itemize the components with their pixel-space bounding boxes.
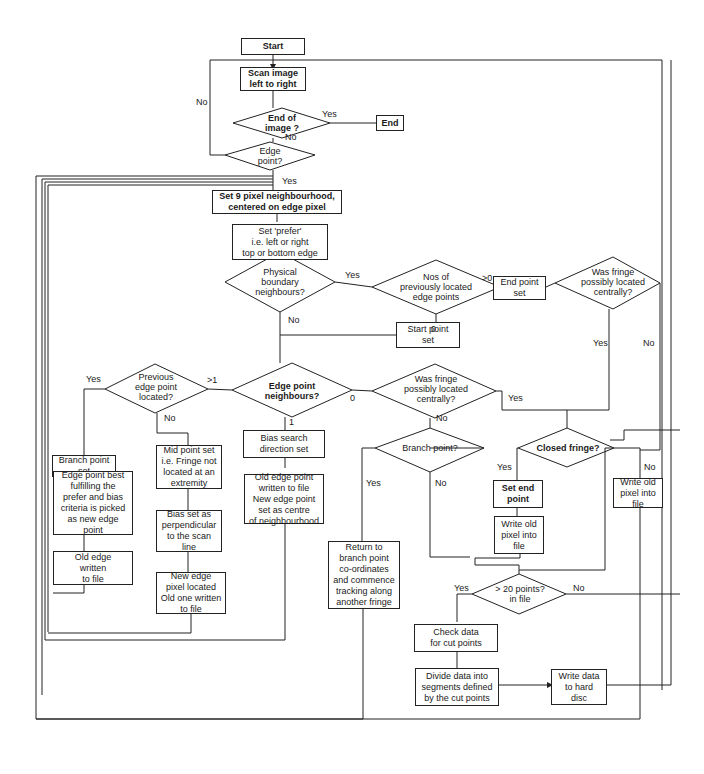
write-old-pixel-right-box: Write old pixel into file — [613, 478, 663, 508]
divide-data-box: Divide data into segments defined by the… — [415, 668, 499, 706]
label-no-end-of-image: No — [285, 132, 297, 142]
label-no-gt20: No — [573, 583, 585, 593]
label-yes-gt20: Yes — [454, 583, 469, 593]
label-no-physical: No — [288, 315, 300, 325]
label-no-previous: No — [164, 413, 176, 423]
label-one: 1 — [289, 417, 294, 427]
previous-edge-point-decision: Previous edge point located? — [120, 370, 192, 404]
old-edge-point-written-box: Old edge point written to file New edge … — [244, 474, 324, 524]
label-yes-previous: Yes — [86, 374, 101, 384]
end-box: End — [376, 115, 404, 131]
label-zero-neighbours: 0 — [350, 393, 355, 403]
check-data-box: Check data for cut points — [414, 624, 498, 652]
label-yes-branch: Yes — [366, 478, 381, 488]
label-gt1: >1 — [207, 375, 217, 385]
bias-search-direction-box: Bias search direction set — [243, 430, 325, 458]
set-neighbourhood-box: Set 9 pixel neighbourhood, centered on e… — [212, 190, 342, 214]
end-point-set-box: End point set — [493, 276, 546, 300]
edge-point-neighbours-decision: Edge point neighbours? — [250, 378, 334, 404]
label-no-closed: No — [644, 462, 656, 472]
label-yes-end: Yes — [322, 109, 337, 119]
scan-image-box: Scan image left to right — [240, 67, 306, 91]
was-fringe-central-mid-decision: Was fringe possibly located centrally? — [388, 372, 484, 406]
nos-previously-located-decision: Nos of previously located edge points — [392, 270, 480, 304]
set-prefer-box: Set 'prefer' i.e. left or right top or b… — [232, 224, 328, 260]
write-hard-disc-box: Write data to hard disc — [551, 669, 607, 705]
label-zero-nos: 0 — [431, 324, 436, 334]
label-no-was-fringe-top: No — [643, 338, 655, 348]
edge-point-decision: Edge point? — [240, 143, 300, 169]
new-edge-pixel-box: New edge pixel located Old one written t… — [156, 572, 226, 614]
label-gt0: >0 — [482, 273, 492, 283]
label-no-branch: No — [435, 478, 447, 488]
label-yes-was-fringe-mid: Yes — [508, 393, 523, 403]
write-old-pixel-left-box: Write old pixel into file — [494, 516, 544, 554]
set-end-point-box: Set end point — [493, 480, 543, 508]
physical-boundary-decision: Physical boundary neighbours? — [242, 265, 318, 299]
flowchart-canvas: Start Scan image left to right End of im… — [0, 0, 704, 774]
start-box: Start — [241, 38, 305, 55]
connector-lines — [0, 0, 704, 774]
old-edge-written-box: Old edge written to file — [53, 551, 133, 585]
more-than-20-points-decision: > 20 points? in file — [484, 582, 556, 606]
was-fringe-central-top-decision: Was fringe possibly located centrally? — [568, 265, 658, 299]
edge-point-best-box: Edge point best fulfilling the prefer an… — [53, 471, 133, 535]
branch-point-decision: Branch point? — [395, 440, 465, 456]
label-no-was-fringe-mid: No — [436, 413, 448, 423]
label-yes-closed: Yes — [497, 462, 512, 472]
label-yes-was-fringe-top: Yes — [593, 338, 608, 348]
mid-point-set-box: Mid point set i.e. Fringe not located at… — [156, 445, 222, 489]
return-to-branch-box: Return to branch point co-ordinates and … — [328, 541, 400, 609]
label-no-scan-loop: No — [196, 97, 208, 107]
end-of-image-decision: End of image ? — [245, 110, 319, 136]
closed-fringe-decision: Closed fringe? — [530, 440, 606, 456]
label-yes-physical: Yes — [345, 270, 360, 280]
label-yes-edge-point: Yes — [282, 176, 297, 186]
start-point-set-box: Start point set — [396, 322, 460, 348]
bias-perpendicular-box: Bias set as perpendicular to the scan li… — [156, 510, 222, 552]
